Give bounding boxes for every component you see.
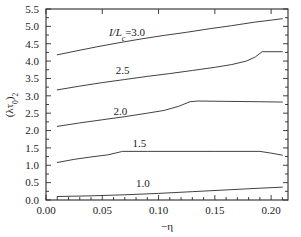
y-axis-title: (λτ0)2 [3, 92, 20, 117]
data-curves [57, 19, 282, 197]
curve-annotation-i-lc-3-0: I/Lc=3.0 [108, 26, 146, 43]
y-tick-label: 3.0 [25, 90, 39, 102]
y-axis-ticks [46, 9, 288, 200]
x-tick-label: 0.10 [149, 204, 169, 216]
y-tick-label: 5.0 [25, 20, 39, 32]
y-tick-label: 1.0 [25, 159, 39, 171]
plot-frame [46, 9, 288, 200]
x-axis-ticks [46, 9, 282, 200]
x-tick-label: 0.05 [93, 204, 113, 216]
curve-annotation-1-5: 1.5 [133, 137, 147, 149]
chart-figure: 0.00.51.01.52.02.53.03.54.04.55.05.5 0.0… [0, 0, 301, 237]
curve-annotation-1-0: 1.0 [136, 177, 150, 189]
y-tick-label: 4.5 [25, 38, 39, 50]
chart-plot-svg: 0.00.51.01.52.02.53.03.54.04.55.05.5 0.0… [0, 0, 301, 237]
y-axis-tick-labels: 0.00.51.01.52.02.53.03.54.04.55.05.5 [25, 3, 39, 206]
curve-annotation-2-0: 2.0 [113, 105, 127, 117]
x-tick-label: 0.15 [205, 204, 225, 216]
y-tick-label: 2.5 [25, 107, 39, 119]
curve-annotations: I/Lc=3.02.52.01.51.0 [108, 26, 150, 189]
y-tick-label: 1.5 [25, 142, 39, 154]
x-axis-title: −η [161, 220, 173, 232]
x-tick-label: 0.20 [261, 204, 281, 216]
y-tick-label: 3.5 [25, 72, 39, 84]
x-tick-label: 0.00 [36, 204, 56, 216]
x-axis-tick-labels: 0.000.050.100.150.20 [36, 204, 281, 216]
axes-spines [46, 9, 288, 200]
curve-2-5 [57, 52, 282, 90]
curve-2-0 [57, 101, 282, 126]
y-tick-label: 4.0 [25, 55, 39, 67]
curve-i-lc-3-0 [57, 19, 282, 55]
curve-1-0 [57, 187, 282, 196]
y-tick-label: 0.5 [25, 176, 39, 188]
y-tick-label: 2.0 [25, 124, 39, 136]
curve-1-5 [57, 151, 282, 162]
y-tick-label: 5.5 [25, 3, 39, 15]
curve-annotation-2-5: 2.5 [116, 64, 130, 76]
